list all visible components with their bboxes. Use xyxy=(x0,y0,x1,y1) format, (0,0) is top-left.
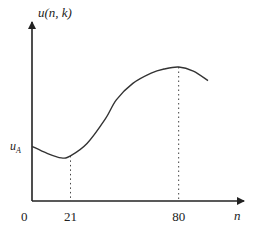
origin-label: 0 xyxy=(21,209,28,224)
y-tick-label-uA: uA xyxy=(10,139,21,155)
chart: u(n, k) n 0 2180 uA xyxy=(0,0,258,231)
x-tick-label-80: 80 xyxy=(172,209,185,224)
x-axis-label: n xyxy=(234,208,241,223)
series-line-u xyxy=(32,67,208,158)
x-tick-label-21: 21 xyxy=(64,209,77,224)
y-axis-label: u(n, k) xyxy=(38,5,72,20)
